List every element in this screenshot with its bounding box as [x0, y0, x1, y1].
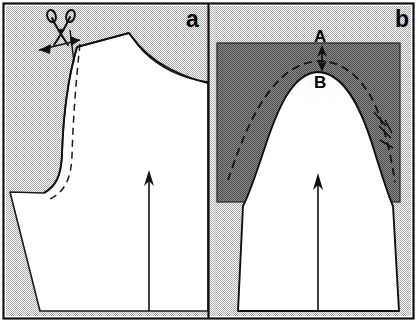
- point-label-a: A: [314, 27, 326, 46]
- panel-a-letter: a: [186, 6, 199, 32]
- point-label-b: B: [314, 73, 326, 92]
- panel-b-letter: b: [395, 6, 409, 32]
- panel-a: a: [6, 6, 208, 316]
- pattern-diagram-svg: a: [0, 0, 417, 322]
- pattern-figure: a: [0, 0, 417, 322]
- panel-b: A B b: [209, 6, 411, 316]
